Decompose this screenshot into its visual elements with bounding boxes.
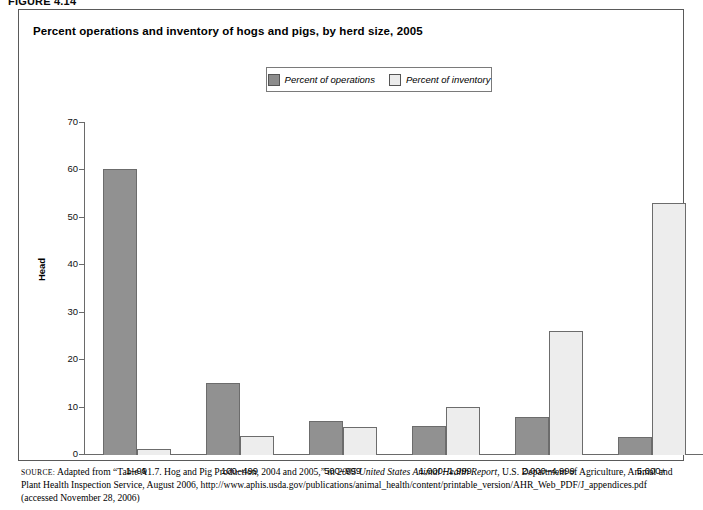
y-axis-tick-label: 20 bbox=[42, 353, 78, 364]
legend-item-operations: Percent of operations bbox=[268, 74, 375, 86]
chart-plot-area: Head 010203040506070 1–99100–499500–9991… bbox=[64, 114, 684, 456]
legend-label-inventory: Percent of inventory bbox=[406, 74, 491, 85]
legend-swatch-operations-icon bbox=[268, 74, 280, 86]
legend-swatch-inventory-icon bbox=[389, 74, 401, 86]
bar-inventory[interactable] bbox=[549, 331, 583, 455]
bar-operations[interactable] bbox=[515, 417, 549, 455]
chart-title: Percent operations and inventory of hogs… bbox=[33, 25, 423, 37]
bar-group: 1,000–1,999 bbox=[394, 114, 497, 455]
figure-number-label: FIGURE 4.14 bbox=[8, 0, 76, 7]
source-italic-title: 2005 United States Animal Health Report bbox=[337, 466, 497, 477]
bar-group: 1–99 bbox=[85, 114, 188, 455]
source-part1: Adapted from “Table A1.7. Hog and Pig Pr… bbox=[55, 466, 337, 477]
y-axis-tick-label: 50 bbox=[42, 211, 78, 222]
figure-panel: Percent operations and inventory of hogs… bbox=[18, 9, 684, 461]
bar-operations[interactable] bbox=[309, 421, 343, 455]
bar-inventory[interactable] bbox=[240, 436, 274, 455]
bar-operations[interactable] bbox=[103, 169, 137, 455]
bar-group: 2,000–4,999 bbox=[497, 114, 600, 455]
bar-group: 5,000+ bbox=[600, 114, 703, 455]
y-axis-tick-label: 60 bbox=[42, 163, 78, 174]
bar-inventory[interactable] bbox=[446, 407, 480, 455]
bar-inventory[interactable] bbox=[652, 203, 686, 455]
legend-item-inventory: Percent of inventory bbox=[389, 74, 491, 86]
bar-inventory[interactable] bbox=[137, 449, 171, 455]
source-prefix: SOURCE: bbox=[21, 468, 55, 477]
chart-legend: Percent of operations Percent of invento… bbox=[266, 67, 492, 92]
bar-operations[interactable] bbox=[618, 437, 652, 455]
bar-operations[interactable] bbox=[206, 383, 240, 455]
y-axis-tick-label: 70 bbox=[42, 116, 78, 127]
y-axis-tick-label: 0 bbox=[42, 448, 78, 459]
bar-groups: 1–99100–499500–9991,000–1,9992,000–4,999… bbox=[85, 114, 703, 455]
bar-group: 100–499 bbox=[188, 114, 291, 455]
source-note: SOURCE: Adapted from “Table A1.7. Hog an… bbox=[21, 466, 685, 504]
y-axis-tick-label: 10 bbox=[42, 401, 78, 412]
bar-inventory[interactable] bbox=[343, 427, 377, 455]
y-axis-tick-label: 30 bbox=[42, 306, 78, 317]
bar-group: 500–999 bbox=[291, 114, 394, 455]
legend-label-operations: Percent of operations bbox=[285, 74, 375, 85]
y-axis-tick-label: 40 bbox=[42, 258, 78, 269]
bar-operations[interactable] bbox=[412, 426, 446, 455]
